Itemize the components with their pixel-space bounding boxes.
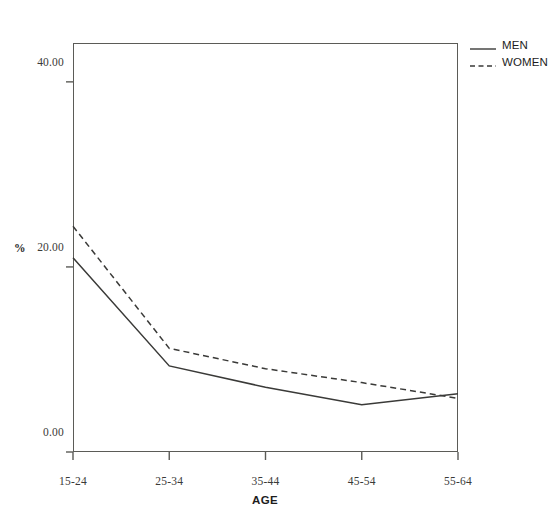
legend-line-solid-icon [470,40,496,50]
legend-label-women: WOMEN [502,56,548,68]
plot-area [73,43,458,452]
legend-item-women: WOMEN [470,54,555,70]
x-tick-label-15-24: 15-24 [38,475,108,487]
y-tick-label-40: 40.00 [6,56,64,68]
legend-line-dashed-icon [470,57,496,67]
x-tick-label-45-54: 45-54 [327,475,397,487]
line-chart-figure: % 40.00 20.00 0.00 15-24 25-34 35-44 45-… [0,0,555,518]
y-tick-label-20: 20.00 [6,241,64,253]
legend: MEN WOMEN [470,37,555,71]
y-tick-marks [66,82,73,452]
x-tick-label-55-64: 55-64 [423,475,493,487]
x-tick-label-25-34: 25-34 [134,475,204,487]
legend-item-men: MEN [470,37,555,53]
x-tick-marks [73,452,458,460]
x-tick-label-35-44: 35-44 [231,475,301,487]
legend-label-men: MEN [502,39,528,51]
y-tick-label-0: 0.00 [6,426,64,438]
x-axis-title: AGE [0,494,530,506]
